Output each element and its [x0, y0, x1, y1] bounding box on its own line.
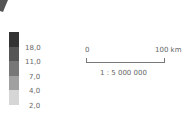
legend-swatch: [9, 32, 19, 47]
legend-label: 11,0: [25, 58, 41, 66]
legend-label: 7,0: [29, 73, 40, 81]
legend-swatch: [9, 76, 19, 91]
map-fragment-shape: [0, 0, 10, 12]
legend-swatch: [9, 47, 19, 62]
scale-bar-line: [86, 58, 165, 63]
legend-swatch: [9, 90, 19, 105]
legend-swatch: [9, 61, 19, 76]
legend-label: 18,0: [25, 44, 41, 52]
scale-end-label: 100 km: [155, 46, 181, 54]
scale-start-label: 0: [85, 46, 89, 54]
legend-label: 4,0: [29, 87, 40, 95]
scale-ratio: 1 : 5 000 000: [100, 69, 147, 77]
scale-bar: 0 100 km 1 : 5 000 000: [84, 46, 180, 86]
legend-label: 2,0: [29, 102, 40, 110]
